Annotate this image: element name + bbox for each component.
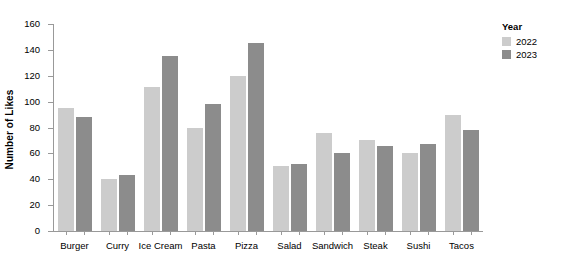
legend-swatch-icon: [502, 50, 511, 59]
x-label-ice-cream: Ice Cream: [139, 240, 183, 251]
x-tick: [281, 231, 282, 235]
x-tick: [342, 231, 343, 235]
y-tick: 60: [48, 153, 53, 154]
bar-sandwich-2023[interactable]: [334, 153, 350, 231]
x-tick: [256, 231, 257, 235]
x-tick: [385, 231, 386, 235]
y-tick: 120: [48, 76, 53, 77]
bar-curry-2023[interactable]: [119, 175, 135, 231]
legend-item-2023[interactable]: 2023: [502, 50, 558, 60]
x-tick: [471, 231, 472, 235]
x-tick: [66, 231, 67, 235]
bar-ice-cream-2022[interactable]: [144, 87, 160, 231]
x-label-tacos: Tacos: [449, 240, 474, 251]
y-tick: 80: [48, 128, 53, 129]
bar-curry-2022[interactable]: [101, 179, 117, 231]
y-tick: 140: [48, 50, 53, 51]
x-tick: [367, 231, 368, 235]
legend-swatch-icon: [502, 37, 511, 46]
legend-label: 2022: [516, 37, 537, 47]
legend-item-2022[interactable]: 2022: [502, 37, 558, 47]
bar-group: [144, 24, 178, 231]
legend-items: 20222023: [502, 37, 558, 59]
bar-ice-cream-2023[interactable]: [162, 56, 178, 231]
y-tick: 0: [48, 231, 53, 232]
bar-burger-2022[interactable]: [58, 108, 74, 231]
x-tick: [410, 231, 411, 235]
y-tick-label: 100: [24, 96, 40, 107]
y-tick-label: 80: [29, 122, 40, 133]
y-tick: 40: [48, 179, 53, 180]
x-tick: [109, 231, 110, 235]
y-tick: 100: [48, 102, 53, 103]
bar-steak-2022[interactable]: [359, 140, 375, 231]
legend-label: 2023: [516, 50, 537, 60]
legend-title: Year: [502, 21, 558, 32]
y-tick-label: 140: [24, 44, 40, 55]
bar-salad-2023[interactable]: [291, 164, 307, 231]
x-tick: [170, 231, 171, 235]
plot-area: 020406080100120140160: [53, 24, 483, 231]
x-tick: [238, 231, 239, 235]
x-tick: [299, 231, 300, 235]
x-tick: [84, 231, 85, 235]
bar-sandwich-2022[interactable]: [316, 133, 332, 231]
bar-pizza-2023[interactable]: [248, 43, 264, 231]
x-label-sushi: Sushi: [407, 240, 431, 251]
bar-group: [273, 24, 307, 231]
y-tick: 160: [48, 24, 53, 25]
bar-group: [187, 24, 221, 231]
x-label-steak: Steak: [363, 240, 387, 251]
y-axis-line: [53, 24, 54, 231]
x-label-burger: Burger: [60, 240, 89, 251]
y-tick-label: 20: [29, 199, 40, 210]
x-label-salad: Salad: [277, 240, 301, 251]
bar-pasta-2022[interactable]: [187, 128, 203, 232]
bar-sushi-2023[interactable]: [420, 144, 436, 231]
y-tick-label: 0: [35, 225, 40, 236]
bar-sushi-2022[interactable]: [402, 153, 418, 231]
x-tick: [453, 231, 454, 235]
bar-tacos-2022[interactable]: [445, 115, 461, 231]
x-tick: [213, 231, 214, 235]
bar-steak-2023[interactable]: [377, 146, 393, 231]
x-tick: [324, 231, 325, 235]
y-tick: 20: [48, 205, 53, 206]
bar-group: [101, 24, 135, 231]
x-tick: [152, 231, 153, 235]
y-tick-label: 120: [24, 70, 40, 81]
x-label-sandwich: Sandwich: [312, 240, 353, 251]
bar-group: [230, 24, 264, 231]
y-tick-label: 60: [29, 147, 40, 158]
x-tick: [428, 231, 429, 235]
bar-burger-2023[interactable]: [76, 117, 92, 231]
x-tick: [127, 231, 128, 235]
bar-group: [445, 24, 479, 231]
x-label-curry: Curry: [106, 240, 129, 251]
y-tick-label: 40: [29, 173, 40, 184]
x-label-pasta: Pasta: [191, 240, 215, 251]
y-tick-label: 160: [24, 18, 40, 29]
legend: Year 20222023: [502, 21, 558, 62]
bar-group: [316, 24, 350, 231]
x-label-pizza: Pizza: [235, 240, 258, 251]
bar-pizza-2022[interactable]: [230, 76, 246, 231]
bar-group: [359, 24, 393, 231]
x-tick: [195, 231, 196, 235]
x-axis-line: [53, 231, 483, 232]
bar-pasta-2023[interactable]: [205, 104, 221, 231]
bar-group: [402, 24, 436, 231]
bar-salad-2022[interactable]: [273, 166, 289, 231]
bar-tacos-2023[interactable]: [463, 130, 479, 231]
bar-group: [58, 24, 92, 231]
bar-chart: Number of Likes 020406080100120140160 Bu…: [0, 0, 561, 259]
y-axis-title: Number of Likes: [0, 0, 18, 259]
